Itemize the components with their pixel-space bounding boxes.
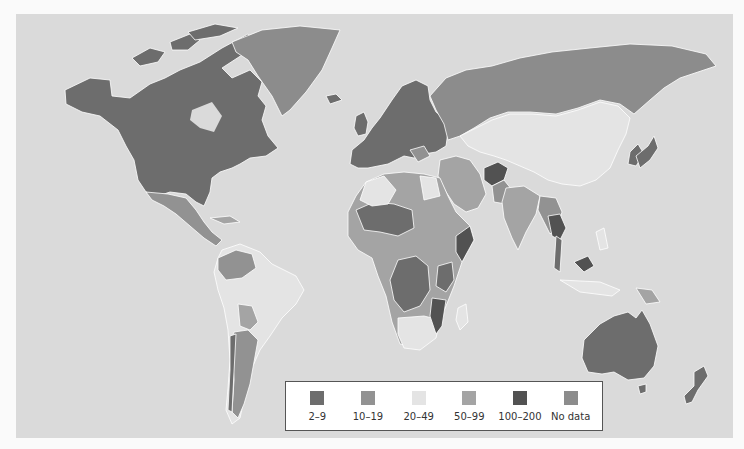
legend-label: 10–19 (353, 411, 383, 422)
legend-label: No data (551, 411, 590, 422)
region-north-america[interactable] (65, 34, 278, 206)
region-australia[interactable] (582, 310, 658, 380)
legend-swatch-no-data (564, 391, 578, 405)
legend-label: 100–200 (498, 411, 541, 422)
world-map: 2–9 10–19 20–49 50–99 100–200 No data (16, 14, 733, 438)
legend-item-2-9: 2–9 (292, 391, 342, 422)
legend-swatch-10-19 (361, 391, 375, 405)
region-mexico[interactable] (146, 192, 222, 246)
legend-item-10-19: 10–19 (343, 391, 393, 422)
legend-item-no-data: No data (546, 391, 596, 422)
region-se-asia[interactable] (548, 214, 566, 240)
legend-swatch-50-99 (462, 391, 476, 405)
legend-label: 50–99 (454, 411, 484, 422)
legend-item-100-200: 100–200 (495, 391, 545, 422)
legend-label: 2–9 (308, 411, 326, 422)
legend-item-50-99: 50–99 (444, 391, 494, 422)
region-india[interactable] (502, 186, 540, 250)
world-map-svg (16, 14, 733, 438)
region-new-zealand[interactable] (684, 366, 708, 404)
legend-item-20-49: 20–49 (394, 391, 444, 422)
legend-label: 20–49 (403, 411, 433, 422)
legend-swatch-100-200 (513, 391, 527, 405)
map-legend: 2–9 10–19 20–49 50–99 100–200 No data (285, 381, 603, 431)
legend-swatch-2-9 (310, 391, 324, 405)
legend-swatch-20-49 (412, 391, 426, 405)
